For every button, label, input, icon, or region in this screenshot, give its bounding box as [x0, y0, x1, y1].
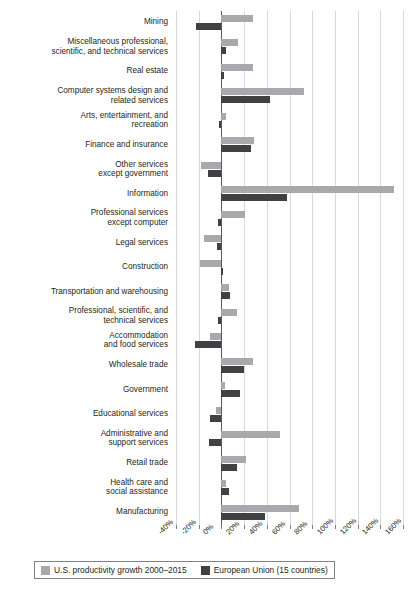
x-tick-mark — [267, 525, 268, 529]
bar-eu — [218, 317, 221, 324]
category-label: Miscellaneous professional,scientific, a… — [0, 37, 168, 56]
bar-row — [176, 64, 403, 80]
bar-row — [176, 235, 403, 251]
x-tick-mark — [290, 525, 291, 529]
category-label: Transportation and warehousing — [0, 287, 168, 297]
bar-eu — [221, 488, 229, 495]
bar-us — [200, 260, 222, 267]
bar-row — [176, 113, 403, 129]
gridline-160 — [403, 11, 404, 525]
bar-eu — [221, 72, 223, 79]
bar-us — [221, 456, 246, 463]
bar-us — [221, 137, 254, 144]
legend-swatch-us-icon — [41, 566, 50, 575]
category-label: Real estate — [0, 66, 168, 76]
bar-us — [221, 211, 245, 218]
bar-eu — [217, 243, 222, 250]
bar-rows — [176, 11, 403, 525]
bar-eu — [218, 219, 221, 226]
bar-us — [221, 15, 253, 22]
bar-row — [176, 260, 403, 276]
bar-eu — [210, 415, 221, 422]
category-label: Retail trade — [0, 458, 168, 468]
x-tick-mark — [244, 525, 245, 529]
bar-row — [176, 284, 403, 300]
category-label: Finance and insurance — [0, 140, 168, 150]
x-tick-mark — [312, 525, 313, 529]
bar-eu — [221, 145, 251, 152]
bar-row — [176, 211, 403, 227]
category-label: Arts, entertainment, andrecreation — [0, 111, 168, 130]
bar-row — [176, 88, 403, 104]
category-label: Administrative andsupport services — [0, 429, 168, 448]
category-label: Wholesale trade — [0, 360, 168, 370]
bar-eu — [221, 194, 287, 201]
category-label: Construction — [0, 262, 168, 272]
bar-row — [176, 333, 403, 349]
bar-eu — [221, 390, 239, 397]
category-label: Government — [0, 385, 168, 395]
category-label: Professional servicesexcept computer — [0, 208, 168, 227]
bar-row — [176, 407, 403, 423]
category-label: Professional, scientific, andtechnical s… — [0, 306, 168, 325]
category-label: Legal services — [0, 238, 168, 248]
category-label: Health care andsocial assistance — [0, 478, 168, 497]
bar-row — [176, 162, 403, 178]
bar-us — [221, 358, 253, 365]
legend-item-eu: European Union (15 countries) — [201, 565, 328, 575]
plot-area — [176, 11, 403, 525]
legend-swatch-eu-icon — [201, 566, 210, 575]
legend-label-eu: European Union (15 countries) — [214, 565, 328, 575]
legend-label-us: U.S. productivity growth 2000–2015 — [54, 565, 187, 575]
bar-us — [201, 162, 221, 169]
category-label: Computer systems design andrelated servi… — [0, 86, 168, 105]
bar-row — [176, 505, 403, 521]
x-axis: -40%-20%0%20%40%60%80%100%120%140%160% — [176, 525, 403, 557]
bar-row — [176, 186, 403, 202]
category-label: Manufacturing — [0, 507, 168, 517]
bar-us — [221, 382, 224, 389]
bar-eu — [208, 170, 222, 177]
bar-us — [221, 431, 280, 438]
category-label: Educational services — [0, 409, 168, 419]
bar-row — [176, 480, 403, 496]
bar-us — [221, 64, 253, 71]
bar-row — [176, 15, 403, 31]
category-label: Mining — [0, 17, 168, 27]
x-tick-mark — [176, 525, 177, 529]
bar-us — [221, 480, 226, 487]
bar-eu — [221, 96, 270, 103]
bar-us — [221, 39, 238, 46]
bar-us — [221, 88, 304, 95]
bar-row — [176, 456, 403, 472]
x-tick-mark — [380, 525, 381, 529]
bar-us — [221, 284, 229, 291]
bar-eu — [219, 121, 221, 128]
category-label: Information — [0, 189, 168, 199]
legend: U.S. productivity growth 2000–2015 Europ… — [34, 561, 335, 579]
bar-us — [221, 186, 394, 193]
bar-us — [221, 505, 298, 512]
bar-us — [216, 407, 222, 414]
x-tick-mark — [403, 525, 404, 529]
bar-row — [176, 309, 403, 325]
bar-eu — [221, 292, 230, 299]
bar-eu — [196, 23, 221, 30]
bar-eu — [209, 439, 221, 446]
x-tick-mark — [199, 525, 200, 529]
bar-us — [210, 333, 221, 340]
category-label: Accommodationand food services — [0, 331, 168, 350]
x-tick-mark — [221, 525, 222, 529]
bar-row — [176, 382, 403, 398]
bar-eu — [221, 366, 244, 373]
bar-eu — [221, 513, 264, 520]
x-tick-mark — [358, 525, 359, 529]
x-tick-label: 0% — [201, 522, 215, 536]
bar-row — [176, 137, 403, 153]
bar-eu — [195, 341, 221, 348]
category-label: Other servicesexcept government — [0, 160, 168, 179]
bar-us — [221, 309, 237, 316]
bar-row — [176, 358, 403, 374]
bar-eu — [221, 464, 237, 471]
bar-eu — [221, 268, 222, 275]
